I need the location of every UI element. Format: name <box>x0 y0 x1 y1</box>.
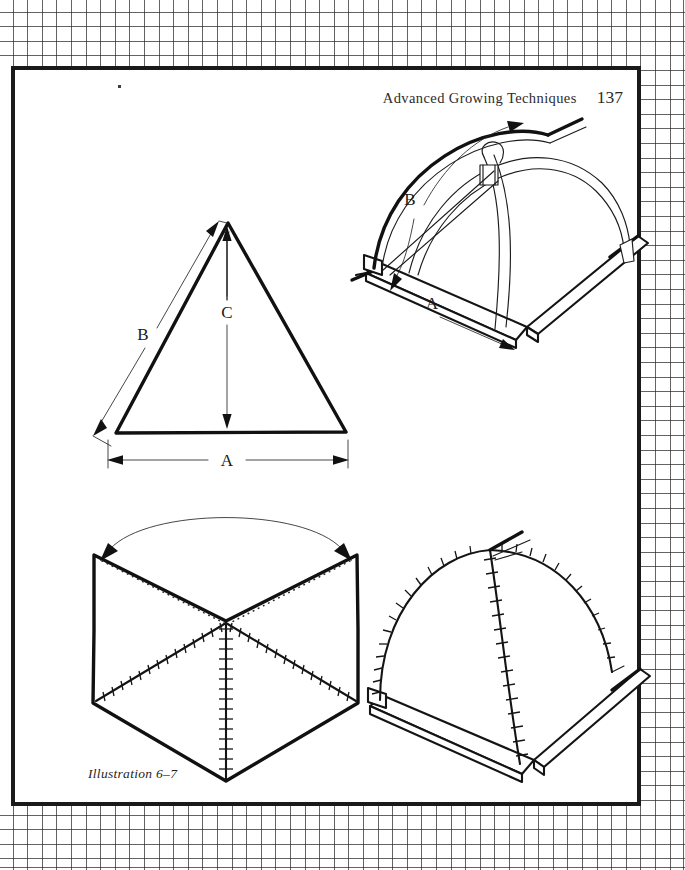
fabric-seam-right <box>226 623 356 701</box>
running-head-title: Advanced Growing Techniques <box>383 90 577 106</box>
page-number: 137 <box>597 87 623 107</box>
cover-frame-front-top <box>370 696 534 774</box>
hoop-rib-front-tip-inner <box>550 127 586 143</box>
dim-b-lower-shaft <box>100 348 145 424</box>
dim-b-arrowhead-lower <box>93 419 107 436</box>
fabric-seam-center <box>219 623 233 779</box>
cover-dome-left-edge <box>372 546 490 700</box>
cover-frame-front-face <box>370 706 522 782</box>
triangle-label-c: C <box>221 303 232 322</box>
hoop-rib-back-outer <box>409 158 630 273</box>
triangle-label-a: A <box>221 451 234 470</box>
hoopframe-label-a: A <box>426 294 439 313</box>
triangle-label-b: B <box>137 325 148 344</box>
frame-rail-front-face <box>366 273 516 348</box>
dim-b-upper-shaft <box>157 230 213 328</box>
hoop-rib-front-tip <box>548 119 582 135</box>
dim-b-arrowhead-upper <box>206 221 219 237</box>
dim-c-arrowhead-bottom <box>222 414 231 429</box>
page-gutter-left <box>0 66 11 806</box>
fabric-cover-pattern-figure <box>74 505 374 795</box>
fabric-hem-dots-left <box>102 561 224 623</box>
cover-rod-tip-thin-a <box>493 540 530 556</box>
cover-dome-center-seam <box>484 550 528 764</box>
triangle-outline <box>116 223 346 433</box>
finished-dome-cover-figure <box>362 520 652 790</box>
hoop-rib-back-inner <box>418 169 624 275</box>
dim-a-arrowhead-left <box>107 455 123 465</box>
hoop-frame-assembly-figure: B A <box>352 105 652 350</box>
figure-caption: Illustration 6–7 <box>88 766 177 782</box>
triangle-dimensions-figure: C B A <box>80 200 370 480</box>
cover-frame-right-top <box>534 669 650 767</box>
fabric-hem-dots-right <box>230 561 350 623</box>
hoopframe-label-b: B <box>404 190 415 209</box>
cover-dome-right-edge <box>490 542 615 672</box>
dim-a-arrowhead-right <box>333 455 349 465</box>
book-page: Advanced Growing Techniques137 C B <box>0 0 685 870</box>
page-rule-bottom <box>11 802 641 806</box>
cover-rod-foot-right <box>612 666 624 672</box>
label-b-leader-lower <box>396 219 414 277</box>
dim-b-extension-upper <box>219 221 227 223</box>
fabric-seam-left <box>96 623 226 701</box>
fold-arrow-arc <box>110 518 342 550</box>
hoop-brace-left-a <box>382 171 494 271</box>
fold-arrow-head-left <box>100 543 118 561</box>
hoop-rib-front-outer <box>374 131 548 268</box>
fold-arrow-head-right <box>334 543 352 561</box>
